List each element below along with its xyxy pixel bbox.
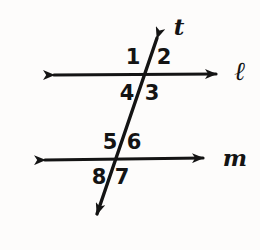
angle-label-1: 1 xyxy=(126,47,141,68)
angle-label-6: 6 xyxy=(127,132,142,153)
line-label-t: t xyxy=(174,15,185,38)
angle-label-2: 2 xyxy=(157,47,172,68)
geometry-figure: 1 2 3 4 5 6 7 8 ℓ m t xyxy=(0,0,260,250)
parallel-line-m xyxy=(45,158,203,160)
angle-label-4: 4 xyxy=(120,83,135,104)
line-label-l: ℓ xyxy=(234,58,245,84)
line-label-m: m xyxy=(223,146,247,169)
angle-label-5: 5 xyxy=(103,132,118,153)
parallel-line-l xyxy=(54,74,216,75)
angle-label-8: 8 xyxy=(92,167,107,188)
angle-label-7: 7 xyxy=(115,167,130,188)
geometry-diagram-canvas xyxy=(0,0,260,250)
angle-label-3: 3 xyxy=(145,83,160,104)
